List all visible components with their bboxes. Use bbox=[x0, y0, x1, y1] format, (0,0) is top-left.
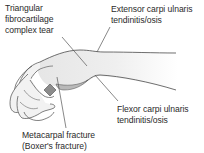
wrist-injury-diagram: Triangular fibrocartilage complex tear E… bbox=[0, 0, 204, 153]
label-fcu-line-1: Flexor carpi ulnaris bbox=[117, 104, 189, 115]
label-tfcc-line-2: fibrocartilage bbox=[5, 14, 54, 25]
label-tfcc-line-3: complex tear bbox=[5, 25, 54, 36]
label-flexor-carpi-ulnaris: Flexor carpi ulnaris tendinitis/osis bbox=[117, 104, 189, 126]
label-ecu-line-1: Extensor carpi ulnaris bbox=[111, 4, 193, 15]
forearm-fill bbox=[38, 50, 178, 90]
label-meta-line-2: (Boxer's fracture) bbox=[22, 141, 95, 152]
label-metacarpal-fracture: Metacarpal fracture (Boxer's fracture) bbox=[22, 130, 95, 152]
leader-line-fcu bbox=[95, 75, 118, 101]
label-tfcc-line-1: Triangular bbox=[5, 3, 54, 14]
label-tfcc-tear: Triangular fibrocartilage complex tear bbox=[5, 3, 54, 36]
label-ecu-line-2: tendinitis/osis bbox=[111, 15, 193, 26]
leader-line-ecu bbox=[97, 27, 110, 52]
label-fcu-line-2: tendinitis/osis bbox=[117, 115, 189, 126]
label-meta-line-1: Metacarpal fracture bbox=[22, 130, 95, 141]
label-extensor-carpi-ulnaris: Extensor carpi ulnaris tendinitis/osis bbox=[111, 4, 193, 26]
